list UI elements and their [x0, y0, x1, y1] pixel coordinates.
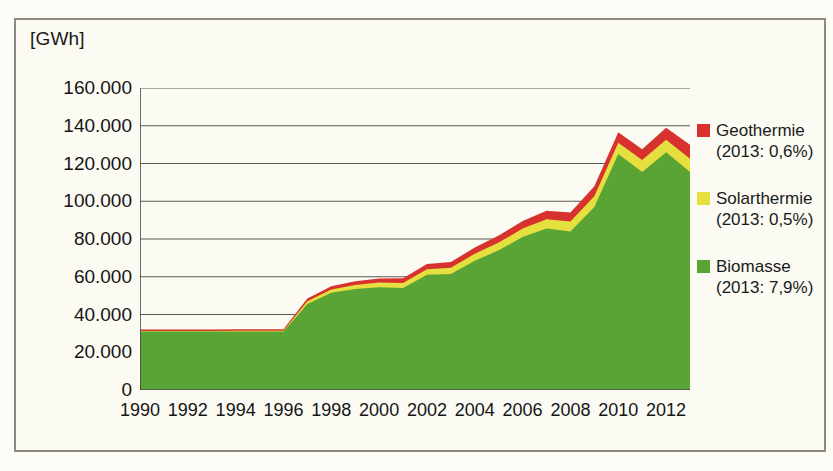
stacked-area-chart — [140, 88, 690, 390]
legend-swatch-icon — [697, 260, 710, 273]
legend-item-row: Geothermie — [697, 120, 827, 141]
legend-item[interactable]: Solarthermie(2013: 0,5%) — [697, 188, 827, 230]
legend-swatch-icon — [697, 192, 710, 205]
legend-item-share: (2013: 0,6%) — [716, 141, 827, 162]
legend-item-row: Solarthermie — [697, 188, 827, 209]
y-axis-tick-label: 160.000 — [12, 77, 132, 99]
x-axis-tick-label: 1992 — [168, 400, 208, 421]
y-axis-tick-label: 40.000 — [12, 304, 132, 326]
legend-item-row: Biomasse — [697, 256, 827, 277]
y-axis-tick-label: 140.000 — [12, 115, 132, 137]
x-axis-tick-label: 1990 — [120, 400, 160, 421]
y-axis-tick-label: 60.000 — [12, 266, 132, 288]
x-axis-tick-label: 1994 — [216, 400, 256, 421]
y-axis-tick-label: 0 — [12, 379, 132, 401]
legend-item-label: Geothermie — [716, 120, 805, 141]
y-axis-tick-labels: 160.000140.000120.000100.00080.00060.000… — [8, 0, 132, 471]
x-axis-tick-label: 1996 — [263, 400, 303, 421]
x-axis-tick-label: 2002 — [407, 400, 447, 421]
chart-legend: Geothermie(2013: 0,6%)Solarthermie(2013:… — [697, 120, 827, 324]
y-axis-tick-label: 100.000 — [12, 190, 132, 212]
legend-item-share: (2013: 7,9%) — [716, 277, 827, 298]
y-axis-tick-label: 120.000 — [12, 153, 132, 175]
legend-item-label: Biomasse — [716, 256, 791, 277]
x-axis-tick-label: 2004 — [455, 400, 495, 421]
x-axis-tick-label: 2010 — [598, 400, 638, 421]
chart-page: [GWh] 160.000140.000120.000100.00080.000… — [0, 0, 833, 471]
legend-item-share: (2013: 0,5%) — [716, 209, 827, 230]
x-axis-tick-label: 2008 — [550, 400, 590, 421]
x-axis-tick-labels: 1990199219941996199820002002200420062008… — [140, 400, 700, 428]
x-axis-tick-label: 1998 — [311, 400, 351, 421]
plot-area — [140, 88, 690, 390]
y-axis-tick-label: 80.000 — [12, 228, 132, 250]
legend-item-label: Solarthermie — [716, 188, 812, 209]
legend-swatch-icon — [697, 124, 710, 137]
x-axis-tick-label: 2012 — [646, 400, 686, 421]
legend-item[interactable]: Geothermie(2013: 0,6%) — [697, 120, 827, 162]
y-axis-tick-label: 20.000 — [12, 341, 132, 363]
x-axis-tick-label: 2000 — [359, 400, 399, 421]
legend-item[interactable]: Biomasse(2013: 7,9%) — [697, 256, 827, 298]
x-axis-tick-label: 2006 — [503, 400, 543, 421]
area-series-group — [140, 128, 690, 390]
